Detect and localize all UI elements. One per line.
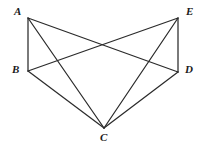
segment-cd — [104, 72, 178, 128]
vertex-label-b: B — [12, 64, 19, 75]
vertex-label-c: C — [100, 132, 107, 143]
geometry-figure: ABCDE — [0, 0, 201, 147]
vertex-label-a: A — [14, 6, 21, 17]
segment-bc — [28, 71, 104, 128]
segment-ac — [28, 18, 104, 128]
edge-group — [28, 18, 178, 128]
figure-canvas — [0, 0, 201, 147]
vertex-label-e: E — [186, 6, 193, 17]
vertex-label-d: D — [185, 64, 193, 75]
segment-ce — [104, 18, 178, 128]
